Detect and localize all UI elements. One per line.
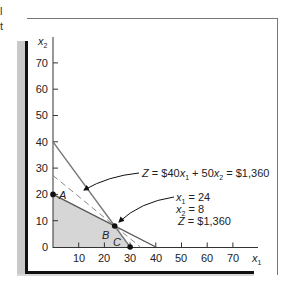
point-c-label: C — [113, 236, 121, 248]
x-tick-labels: 10 20 30 40 50 60 70 — [73, 252, 239, 264]
y-tick-label: 0 — [42, 241, 48, 253]
x-tick-label: 60 — [201, 252, 213, 264]
x-tick-label: 30 — [124, 252, 136, 264]
x-tick-label: 20 — [98, 252, 110, 264]
lp-graph: 0 10 20 30 40 50 60 70 10 20 30 40 50 60… — [0, 0, 291, 290]
x-tick-label: 50 — [175, 252, 187, 264]
point-a-marker — [50, 192, 56, 198]
y-tick-label: 20 — [36, 188, 48, 200]
objective-annotation: Z = $40x1 + 50x2 = $1,360 — [141, 167, 269, 181]
x-axis-label: x1 — [251, 252, 262, 266]
y-tick-label: 40 — [36, 136, 48, 148]
y-tick-label: 10 — [36, 215, 48, 227]
optimum-arrow — [119, 197, 174, 222]
point-c-marker — [127, 244, 133, 250]
point-b-marker — [112, 223, 118, 229]
optimum-z-annotation: Z = $1,360 — [177, 215, 231, 227]
x-tick-label: 40 — [150, 252, 162, 264]
x-tick-label: 10 — [73, 252, 85, 264]
y-tick-label: 30 — [36, 162, 48, 174]
x-tick-label: 70 — [227, 252, 239, 264]
point-b-label: B — [102, 229, 109, 241]
y-tick-label: 60 — [36, 83, 48, 95]
point-a-label: A — [58, 189, 66, 201]
y-tick-label: 50 — [36, 109, 48, 121]
y-tick-label: 70 — [36, 57, 48, 69]
y-tick-labels: 0 10 20 30 40 50 60 70 — [36, 57, 48, 253]
y-axis-label: x2 — [37, 35, 48, 49]
objective-arrow — [84, 173, 139, 190]
